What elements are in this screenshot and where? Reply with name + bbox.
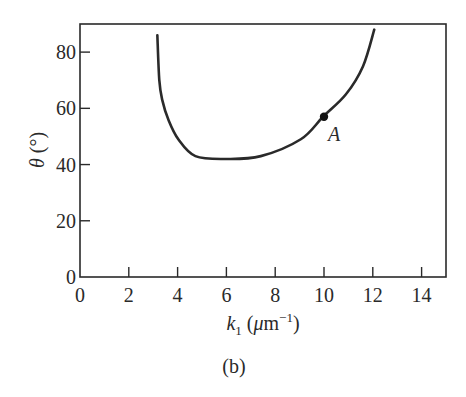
point-a-marker	[320, 113, 328, 121]
chart: 020406080 02468101214 A θ (°) k1 (μm−1) …	[0, 0, 466, 397]
x-tick-label: 0	[75, 284, 85, 306]
series-line	[157, 30, 374, 159]
svg-text:θ (°): θ (°)	[26, 132, 49, 168]
x-tick-label: 12	[363, 284, 383, 306]
y-tick-label: 60	[56, 97, 76, 119]
point-a-label: A	[326, 123, 341, 145]
y-tick-label: 40	[56, 154, 76, 176]
figure-caption: (b)	[222, 355, 245, 378]
x-tick-label: 14	[412, 284, 432, 306]
data-curve	[157, 30, 374, 159]
plot-frame	[80, 24, 446, 277]
y-axis-label: θ (°)	[26, 132, 49, 168]
y-tick-label: 20	[56, 210, 76, 232]
x-tick-label: 4	[173, 284, 183, 306]
y-axis-ticks: 020406080	[56, 41, 90, 288]
x-tick-label: 10	[314, 284, 334, 306]
x-axis-ticks: 02468101214	[75, 267, 432, 306]
x-axis-label: k1 (μm−1)	[226, 310, 299, 338]
x-tick-label: 2	[124, 284, 134, 306]
annotations: A	[320, 113, 341, 145]
x-tick-label: 6	[221, 284, 231, 306]
y-tick-label: 80	[56, 41, 76, 63]
x-tick-label: 8	[270, 284, 280, 306]
